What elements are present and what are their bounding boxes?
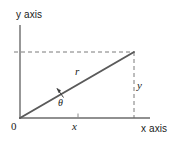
radius-ray-line	[20, 52, 134, 118]
x-component-label: x	[72, 121, 77, 132]
y-axis-label: y axis	[16, 10, 42, 20]
x-axis-label: x axis	[141, 124, 167, 134]
polar-coordinate-figure: y axis x axis 0 r θ x y	[0, 0, 177, 146]
origin-label: 0	[11, 121, 17, 132]
radius-label: r	[75, 66, 79, 77]
y-component-label: y	[137, 80, 142, 91]
angle-theta-label: θ	[58, 98, 63, 108]
